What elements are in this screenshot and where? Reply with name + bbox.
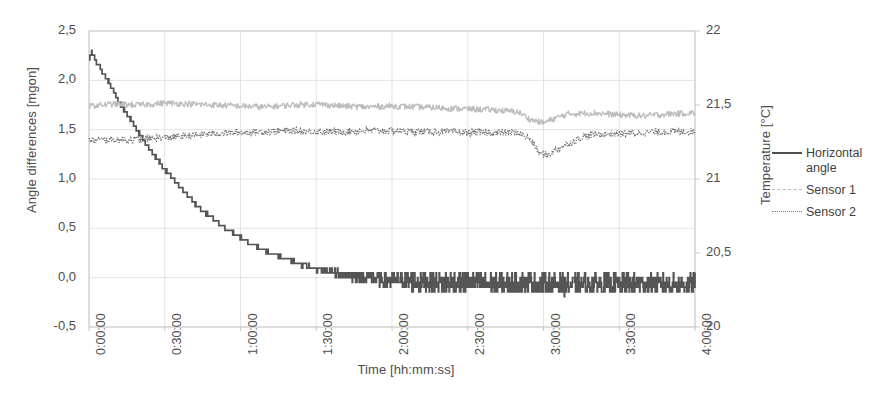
chart-legend: Horizontal angleSensor 1Sensor 2	[772, 146, 892, 227]
legend-item-label: Sensor 1	[806, 183, 856, 198]
y-axis-left-tick-label: 1,0	[34, 170, 76, 185]
y-axis-right-title: Temperature [°C]	[758, 45, 773, 265]
y-axis-left-title: Angle differences [mgon]	[24, 0, 39, 290]
x-axis-title: Time [hh:mm:ss]	[306, 362, 506, 377]
legend-line-dotted-icon	[772, 205, 802, 219]
x-axis-tick-label: 4:00:00	[700, 313, 714, 355]
y-axis-left-tick-label: 2,0	[34, 71, 76, 86]
y-axis-left-tick-label: 2,5	[34, 22, 76, 37]
x-axis-tick-label: 1:30:00	[321, 313, 335, 355]
x-axis-tick-label: 1:00:00	[246, 313, 260, 355]
x-axis-tick-label: 2:30:00	[473, 313, 487, 355]
legend-item[interactable]: Sensor 1	[772, 183, 892, 198]
y-axis-right-tick-label: 21	[706, 170, 752, 185]
y-axis-right-tick-label: 21,5	[706, 96, 752, 111]
legend-item[interactable]: Sensor 2	[772, 205, 892, 220]
y-axis-left-tick-label: -0,5	[34, 318, 76, 333]
y-axis-right-tick-label: 22	[706, 22, 752, 37]
chart-container: Angle differences [mgon] Temperature [°C…	[0, 0, 893, 419]
legend-line-dashed-icon	[772, 183, 802, 197]
y-axis-left-tick-label: 0,5	[34, 219, 76, 234]
x-axis-tick-label: 0:30:00	[170, 313, 184, 355]
x-axis-tick-label: 3:00:00	[549, 313, 563, 355]
legend-line-solid-icon	[772, 146, 802, 160]
legend-item-label: Sensor 2	[806, 205, 856, 220]
y-axis-left-tick-label: 0,0	[34, 269, 76, 284]
x-axis-tick-label: 0:00:00	[94, 313, 108, 355]
legend-item-label: Horizontal angle	[806, 146, 892, 176]
x-axis-tick-label: 2:00:00	[397, 313, 411, 355]
y-axis-right-tick-label: 20,5	[706, 244, 752, 259]
legend-item[interactable]: Horizontal angle	[772, 146, 892, 176]
x-axis-tick-label: 3:30:00	[624, 313, 638, 355]
y-axis-left-tick-label: 1,5	[34, 121, 76, 136]
